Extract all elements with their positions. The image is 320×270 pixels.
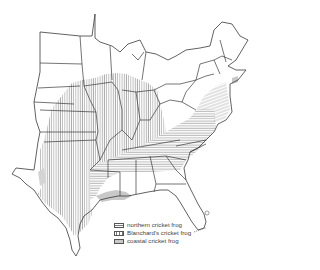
gray-fill-swatch-icon [114, 239, 124, 244]
legend-item-northern: northern cricket frog [114, 221, 191, 229]
horizontal-hatch-swatch-icon [114, 223, 124, 228]
lake-okeechobee [205, 211, 209, 215]
legend-item-blanchards: Blanchard's cricket frog [114, 229, 191, 237]
legend-label: Blanchard's cricket frog [127, 229, 191, 237]
map-legend: northern cricket frog Blanchard's cricke… [114, 221, 191, 245]
legend-item-coastal: coastal cricket frog [114, 237, 191, 245]
legend-label: northern cricket frog [127, 221, 182, 229]
florida-keys [194, 228, 206, 232]
vertical-hatch-swatch-icon [114, 231, 124, 236]
legend-label: coastal cricket frog [127, 237, 179, 245]
